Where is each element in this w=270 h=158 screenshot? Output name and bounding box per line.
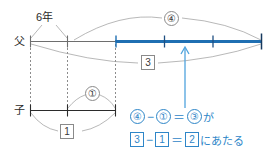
years-label: 6年	[36, 12, 53, 23]
ratio-equation: ④−①＝③が	[130, 108, 214, 125]
eq-term-boxed: 3	[130, 132, 144, 147]
years-leader-lines	[31, 25, 67, 38]
eq-term-circled: ④	[130, 109, 145, 124]
child-circled-arc-left	[68, 95, 85, 108]
child-circled-marker: ①	[85, 86, 100, 101]
eq-term-circled: ③	[187, 109, 202, 124]
father-boxed-marker: 3	[141, 55, 155, 70]
eq-operator: ＝	[171, 108, 187, 125]
child-axis	[31, 105, 116, 117]
eq-operator: −	[144, 133, 155, 147]
years-leader-left	[31, 25, 42, 38]
father-total-marker: ④	[164, 11, 179, 26]
father-total-arc-right	[182, 18, 261, 40]
child-boxed-arc-right	[82, 113, 115, 131]
row-label-child: 子	[14, 105, 25, 116]
row-label-father: 父	[14, 36, 25, 47]
line-segment-diagram: 父 子 6年 ④ 3 ① 1 ④−①＝③が 3−1＝2にあたる	[0, 0, 270, 158]
eq-tail-text: が	[202, 109, 214, 125]
father-boxed-arc-left	[31, 44, 138, 63]
eq-term-boxed: 2	[185, 132, 199, 147]
father-total-arc-left	[74, 17, 162, 40]
father-axis	[31, 36, 116, 48]
child-boxed-marker: 1	[60, 124, 74, 139]
callout-arrow-icon	[181, 47, 189, 108]
eq-operator: ＝	[169, 131, 185, 148]
eq-tail-text: にあたる	[199, 132, 244, 148]
years-leader-right	[56, 25, 67, 38]
eq-term-circled: ①	[156, 109, 171, 124]
child-boxed-arc-left	[31, 113, 58, 131]
father-blue-segment	[116, 34, 263, 50]
eq-term-boxed: 1	[155, 132, 169, 147]
child-circled-arc-right	[100, 95, 115, 108]
eq-operator: −	[145, 110, 156, 124]
dashed-connectors	[31, 40, 116, 110]
father-boxed-arc-right	[158, 44, 261, 63]
boxed-equation: 3−1＝2にあたる	[130, 131, 244, 148]
